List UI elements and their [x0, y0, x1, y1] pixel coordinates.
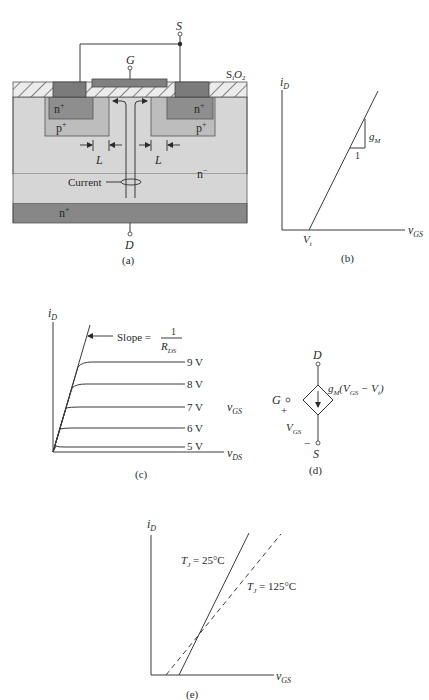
caption-a: (a)	[122, 254, 135, 267]
d-plus: +	[281, 404, 287, 416]
label-drain: D	[124, 238, 134, 252]
e-label-25c: TJ = 25°C	[181, 554, 225, 569]
panel-e-temperature: iD vGS TJ = 25°C TJ = 125°C (e)	[147, 517, 296, 700]
c-slope-num: 1	[171, 326, 176, 337]
caption-e: (e)	[186, 688, 199, 700]
c-curve-8v: 8 V	[187, 378, 203, 390]
c-curve-7v: 7 V	[187, 401, 203, 413]
c-param-label: vGS	[227, 400, 242, 416]
d-vgs-label: VGS	[286, 421, 302, 436]
label-current: Current	[68, 176, 102, 188]
panel-a-cross-section: S G D (a) SiO2 n+ n+ p+ p+ n− n+ L L Cur…	[13, 19, 247, 267]
c-curve-5v: 5 V	[187, 440, 203, 452]
gate-electrode	[92, 79, 167, 87]
c-y-axis-label: iD	[48, 306, 57, 322]
d-drain-label: D	[312, 348, 322, 362]
mosfet-figure: S G D (a) SiO2 n+ n+ p+ p+ n− n+ L L Cur…	[0, 0, 429, 700]
d-gate-label: G	[272, 393, 281, 407]
label-oxide: SiO2	[226, 68, 246, 82]
right-nplus-source	[167, 97, 213, 119]
left-source-contact	[53, 82, 86, 97]
d-source-expression: gM(VGS − Vt)	[328, 382, 384, 397]
c-slope-text: Slope =	[117, 331, 151, 343]
drift-lower	[13, 174, 247, 203]
d-source-terminal	[316, 441, 320, 445]
b-threshold-label: Vt	[303, 233, 313, 248]
curve-7v	[53, 407, 185, 452]
b-y-axis-label: iD	[280, 75, 289, 91]
panel-d-equivalent-circuit: D G S + − VGS gM(VGS − Vt) (d)	[272, 348, 384, 477]
substrate-region	[13, 203, 247, 223]
caption-b: (b)	[341, 252, 354, 265]
c-curve-9v: 9 V	[187, 356, 203, 368]
label-gate: G	[126, 53, 135, 67]
curve-6v	[53, 428, 185, 452]
b-slope-run: 1	[355, 150, 360, 161]
source-junction-dot	[178, 42, 182, 46]
caption-d: (d)	[309, 464, 322, 477]
label-source: S	[176, 19, 182, 33]
c-slope-den: RDS	[160, 340, 177, 355]
panel-b-transfer-curve: iD vGS Vt gM 1 (b)	[280, 75, 423, 265]
right-source-contact	[175, 82, 209, 97]
label-L-right: L	[154, 153, 162, 167]
e-y-axis-label: iD	[147, 517, 156, 533]
b-x-axis-label: vGS	[408, 223, 423, 239]
e-x-axis-label: vGS	[276, 669, 291, 685]
d-source-label: S	[313, 447, 319, 461]
c-curve-6v: 6 V	[187, 422, 203, 434]
d-minus: −	[304, 437, 310, 449]
drain-terminal	[128, 232, 132, 236]
label-L-left: L	[95, 153, 103, 167]
b-slope-label: gM	[369, 130, 382, 145]
caption-c: (c)	[135, 468, 148, 481]
c-x-axis-label: vDS	[227, 446, 242, 462]
curve-8v	[53, 384, 185, 452]
d-drain-terminal	[316, 362, 320, 366]
curve-5v	[53, 446, 185, 452]
panel-c-output-characteristics: Slope = 1 RDS 9 V 8 V 7 V 6 V 5 V iD vDS…	[48, 306, 242, 481]
e-label-125c: TJ = 125°C	[247, 580, 296, 595]
d-gate-terminal	[286, 398, 290, 402]
